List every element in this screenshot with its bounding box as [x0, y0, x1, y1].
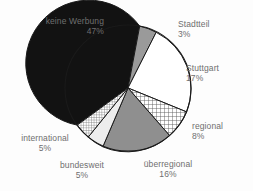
pie-label-international: international 5%	[3, 133, 87, 153]
pie-label-bundesweit-text: bundesweit	[60, 160, 104, 170]
pie-label-stuttgart-value: 17%	[186, 73, 248, 83]
pie-label-regional-value: 8%	[192, 131, 248, 141]
pie-label-international-value: 5%	[3, 143, 87, 153]
pie-label-keine-werbung-text: keine Werbung	[46, 16, 104, 26]
pie-label-stadtteil: Stadtteil 3%	[178, 19, 248, 39]
pie-label-ueberregional: überregional 16%	[126, 159, 210, 179]
pie-label-international-text: international	[21, 133, 69, 143]
pie-label-stuttgart-text: Stuttgart	[186, 63, 219, 73]
pie-label-bundesweit: bundesweit 5%	[42, 160, 122, 180]
pie-label-keine-werbung-value: 47%	[8, 26, 104, 36]
pie-label-stadtteil-text: Stadtteil	[178, 19, 210, 29]
pie-label-regional: regional 8%	[192, 121, 248, 141]
pie-label-keine-werbung: keine Werbung 47%	[8, 16, 104, 36]
pie-label-ueberregional-value: 16%	[126, 169, 210, 179]
pie-chart-figure: keine Werbung 47% Stadtteil 3% Stuttgart…	[0, 0, 253, 191]
pie-label-regional-text: regional	[192, 121, 223, 131]
pie-label-ueberregional-text: überregional	[144, 159, 192, 169]
pie-label-stadtteil-value: 3%	[178, 29, 248, 39]
pie-label-bundesweit-value: 5%	[42, 170, 122, 180]
pie-label-stuttgart: Stuttgart 17%	[186, 63, 248, 83]
